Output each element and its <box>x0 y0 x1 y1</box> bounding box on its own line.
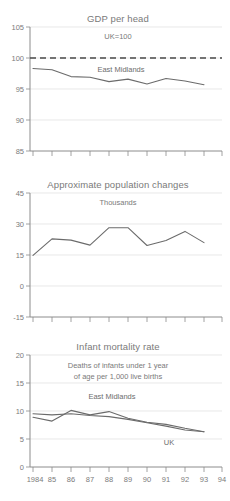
gdp-ytick-90: 90 <box>16 116 24 125</box>
imr-ytick-15: 15 <box>16 379 24 388</box>
xtick-93: 93 <box>200 475 208 484</box>
population-ytick-0: 0 <box>20 282 24 291</box>
population-east-midlands-line <box>33 228 204 256</box>
gdp-chart-subtitle: UK=100 <box>104 32 131 41</box>
population-ytick-30: 30 <box>16 220 24 229</box>
population-chart-title: Approximate population changes <box>47 179 189 190</box>
population-ytick-neg15: -15 <box>13 313 24 322</box>
imr-uk-line <box>33 414 204 432</box>
xtick-86: 86 <box>67 475 75 484</box>
imr-ytick-0: 0 <box>20 463 24 472</box>
population-y-axis: 45 30 15 0 -15 <box>13 189 30 322</box>
xtick-87: 87 <box>86 475 94 484</box>
gdp-series-label-east-midlands: East Midlands <box>97 65 144 74</box>
xtick-90: 90 <box>143 475 151 484</box>
figure-page: GDP per head UK=100 105 100 95 90 85 <box>0 0 230 501</box>
gdp-ytick-85: 85 <box>16 147 24 156</box>
xtick-88: 88 <box>105 475 113 484</box>
imr-ytick-20: 20 <box>16 351 24 360</box>
population-changes-plot: Approximate population changes Thousands… <box>0 166 230 332</box>
gdp-ytick-95: 95 <box>16 85 24 94</box>
imr-ytick-5: 5 <box>20 435 24 444</box>
infant-mortality-plot: Infant mortality rate Deaths of infants … <box>0 332 230 501</box>
chart-infant-mortality-rate: Infant mortality rate Deaths of infants … <box>0 332 230 501</box>
imr-chart-subtitle-line1: Deaths of infants under 1 year <box>68 361 169 370</box>
gdp-y-axis: 105 100 95 90 85 <box>11 23 30 156</box>
xtick-91: 91 <box>162 475 170 484</box>
population-x-axis <box>30 317 222 322</box>
xtick-1984: 1984 <box>27 475 44 484</box>
population-ytick-45: 45 <box>16 189 24 198</box>
gdp-x-axis <box>30 151 222 156</box>
imr-x-axis <box>30 467 222 472</box>
xtick-92: 92 <box>181 475 189 484</box>
chart-approximate-population-changes: Approximate population changes Thousands… <box>0 166 230 332</box>
chart-gdp-per-head: GDP per head UK=100 105 100 95 90 85 <box>0 0 230 166</box>
gdp-ytick-105: 105 <box>11 23 24 32</box>
imr-series-label-east-midlands: East Midlands <box>88 392 135 401</box>
population-chart-subtitle: Thousands <box>99 198 136 207</box>
population-ytick-15: 15 <box>16 251 24 260</box>
imr-series-label-uk: UK <box>164 438 174 447</box>
imr-chart-title: Infant mortality rate <box>76 341 159 352</box>
xtick-94: 94 <box>218 475 226 484</box>
gdp-per-head-plot: GDP per head UK=100 105 100 95 90 85 <box>0 0 230 166</box>
imr-y-axis: 20 15 10 5 0 <box>16 351 30 472</box>
imr-x-tick-labels: 1984 85 86 87 88 89 90 91 92 93 94 <box>27 475 227 484</box>
xtick-85: 85 <box>48 475 56 484</box>
xtick-89: 89 <box>124 475 132 484</box>
gdp-ytick-100: 100 <box>11 54 24 63</box>
imr-chart-subtitle-line2: of age per 1,000 live births <box>74 372 163 381</box>
imr-ytick-10: 10 <box>16 407 24 416</box>
gdp-chart-title: GDP per head <box>87 13 149 24</box>
